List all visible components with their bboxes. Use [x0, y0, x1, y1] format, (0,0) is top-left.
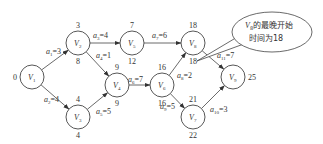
- earliest-time: 21: [189, 95, 197, 104]
- time-label: 25: [248, 73, 256, 82]
- earliest-time: 18: [189, 21, 197, 30]
- latest-time: 9: [115, 99, 119, 108]
- edge-v1-v2: a1=3: [42, 47, 69, 70]
- callout-line-2: 时间为18: [249, 33, 283, 43]
- time-label: 0: [13, 73, 17, 82]
- edge-v7-v9: a10=3: [201, 85, 227, 115]
- earliest-time: 16: [158, 63, 166, 72]
- node-v2: V238: [66, 21, 90, 66]
- earliest-time: 4: [76, 95, 80, 104]
- earliest-time: 3: [76, 21, 80, 30]
- edge-label: a3=4: [93, 31, 108, 41]
- latest-time: 12: [128, 57, 136, 66]
- edge-label: a4=1: [96, 51, 111, 61]
- callout-ellipse: [232, 12, 312, 52]
- callout-bubble: V8的最晚开始 时间为18: [197, 12, 312, 61]
- edge-v1-v3: a2=4: [41, 85, 69, 109]
- edge-label: a7=6: [152, 31, 167, 41]
- latest-time: 22: [189, 131, 197, 140]
- latest-time: 8: [76, 57, 80, 66]
- earliest-time: 9: [115, 63, 119, 72]
- edge-v4-v6: a6=7: [128, 75, 150, 85]
- node-v4: V499: [105, 63, 129, 108]
- callout-line-1: V8的最晚开始: [245, 20, 293, 31]
- edge-label: a6=7: [128, 75, 143, 85]
- edge-label: a5=5: [96, 107, 111, 117]
- latest-time: 18: [189, 57, 197, 66]
- latest-time: 4: [76, 131, 80, 140]
- edge-v2-v5: a3=4: [90, 31, 120, 43]
- latest-time: 16: [158, 99, 166, 108]
- edge-label: a8=2: [177, 71, 192, 81]
- earliest-time: 7: [130, 21, 134, 30]
- edge-v5-v8: a7=6: [144, 31, 181, 43]
- edge-v3-v4: a5=5: [87, 93, 111, 117]
- node-v5: V5712: [120, 21, 144, 66]
- aoe-network-diagram: a1=3a2=4a3=4a4=1a5=5a6=7a7=6a8=2a9=5a10=…: [0, 0, 323, 144]
- node-v3: V344: [66, 95, 90, 140]
- edge-label: a1=3: [46, 47, 61, 57]
- node-v7: V72122: [181, 95, 205, 140]
- edge-v2-v4: a4=1: [86, 51, 111, 76]
- node-v9: V925: [221, 65, 256, 89]
- node-v1: V10: [13, 65, 44, 89]
- edge-label: a2=4: [44, 95, 59, 105]
- edge-label: a10=3: [210, 105, 228, 115]
